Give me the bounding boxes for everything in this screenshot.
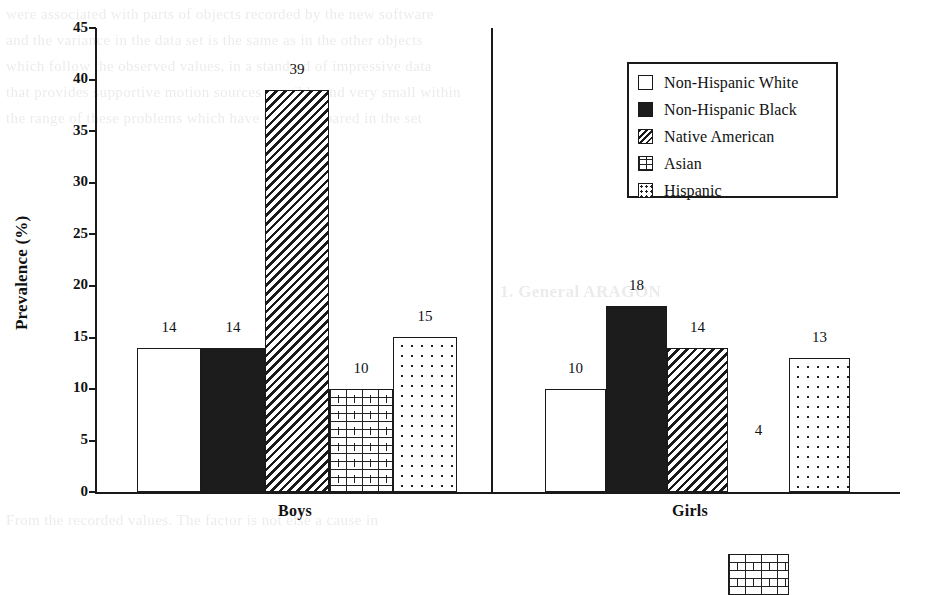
bar-value-girls-non-hispanic-black: 18 [606, 278, 667, 293]
legend-item-native-american[interactable]: Native American [638, 123, 824, 150]
legend-label: Non-Hispanic White [664, 74, 798, 92]
bar-girls-non-hispanic-black[interactable] [606, 306, 667, 492]
group-label-boys: Boys [235, 502, 355, 520]
legend-item-hispanic[interactable]: Hispanic [638, 177, 824, 204]
bar-value-boys-hispanic: 15 [393, 309, 457, 324]
y-tick-label-5: 5 [50, 432, 88, 447]
bar-value-boys-native-american: 39 [265, 62, 329, 77]
bar-value-girls-non-hispanic-white: 10 [545, 361, 606, 376]
legend-label: Hispanic [664, 182, 722, 200]
legend-label: Asian [664, 155, 702, 173]
legend-swatch-black-icon [638, 102, 653, 117]
bar-boys-hispanic[interactable] [393, 337, 457, 492]
legend-item-non-hispanic-black[interactable]: Non-Hispanic Black [638, 96, 824, 123]
y-tick-label-40: 40 [50, 71, 88, 86]
bar-girls-hispanic[interactable] [789, 358, 850, 492]
legend-label: Native American [664, 128, 774, 146]
legend: Non-Hispanic White Non-Hispanic Black Na… [627, 62, 838, 198]
bar-boys-non-hispanic-black[interactable] [201, 348, 265, 492]
legend-swatch-white-icon [638, 75, 653, 90]
bar-girls-asian[interactable] [728, 554, 789, 595]
legend-item-asian[interactable]: Asian [638, 150, 824, 177]
legend-swatch-dotted-icon [638, 183, 653, 198]
y-tick-label-0: 0 [50, 484, 88, 499]
bar-girls-non-hispanic-white[interactable] [545, 389, 606, 492]
bar-girls-native-american[interactable] [667, 348, 728, 492]
x-axis-line [95, 492, 900, 494]
y-tick-label-30: 30 [50, 174, 88, 189]
bar-boys-asian[interactable] [329, 389, 393, 492]
group-label-girls: Girls [630, 502, 750, 520]
y-tick-label-10: 10 [50, 380, 88, 395]
legend-swatch-brick-icon [638, 156, 653, 171]
legend-item-non-hispanic-white[interactable]: Non-Hispanic White [638, 69, 824, 96]
y-tick-label-35: 35 [50, 123, 88, 138]
bar-value-girls-asian: 4 [728, 423, 789, 438]
y-axis-line [95, 28, 97, 494]
legend-label: Non-Hispanic Black [664, 101, 797, 119]
bar-value-boys-non-hispanic-black: 14 [201, 320, 265, 335]
y-tick-label-25: 25 [50, 226, 88, 241]
bar-value-girls-native-american: 14 [667, 320, 728, 335]
bar-value-boys-asian: 10 [329, 361, 393, 376]
y-tick-label-45: 45 [50, 20, 88, 35]
bar-boys-non-hispanic-white[interactable] [137, 348, 201, 492]
bar-boys-native-american[interactable] [265, 90, 329, 492]
y-tick-label-20: 20 [50, 277, 88, 292]
legend-swatch-diagonal-hatch-icon [638, 129, 653, 144]
bar-value-boys-non-hispanic-white: 14 [137, 320, 201, 335]
bar-value-girls-hispanic: 13 [789, 330, 850, 345]
y-tick-label-15: 15 [50, 329, 88, 344]
y-axis-title: Prevalence (%) [12, 216, 32, 330]
group-divider-line [491, 28, 493, 494]
